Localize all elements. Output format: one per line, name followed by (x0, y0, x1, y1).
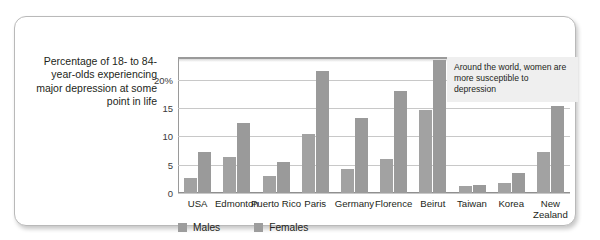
y-axis-tick-label: 15 (162, 103, 173, 114)
y-axis-tick-label: 0 (168, 188, 173, 199)
bar-females (198, 152, 211, 193)
bar-group: Germany (335, 57, 374, 193)
bar-males (498, 183, 511, 193)
bar-group: Edmonton (217, 57, 256, 193)
chart-screenshot: Percentage of 18- to 84-year-olds experi… (0, 0, 600, 240)
chart-frame: Percentage of 18- to 84-year-olds experi… (14, 16, 576, 226)
bar-females (394, 91, 407, 193)
bar-females (433, 60, 446, 193)
y-axis-caption: Percentage of 18- to 84-year-olds experi… (25, 55, 157, 109)
chart-legend: Males Females (178, 222, 308, 233)
legend-item-females: Females (254, 222, 308, 233)
bar-males (459, 186, 472, 193)
y-axis-tick-label: 5 (168, 159, 173, 170)
legend-swatch-males-icon (178, 223, 187, 232)
legend-item-males: Males (178, 222, 220, 233)
bar-group: Paris (296, 57, 335, 193)
y-axis-tick-label: 10 (162, 131, 173, 142)
bar-males (263, 176, 276, 193)
x-axis-tick-label: New Zealand (525, 198, 576, 220)
gridline: 0 (178, 193, 570, 194)
bar-females (551, 106, 564, 193)
bar-females (237, 123, 250, 193)
bar-group: Puerto Rico (256, 57, 295, 193)
annotation-callout: Around the world, women are more suscept… (447, 57, 578, 102)
bar-males (537, 152, 550, 193)
bar-females (355, 118, 368, 193)
bar-females (512, 173, 525, 193)
legend-label-males: Males (193, 222, 220, 233)
bar-group: Florence (374, 57, 413, 193)
y-axis-tick-label: 20% (154, 74, 173, 85)
bar-males (419, 110, 432, 193)
bar-females (473, 185, 486, 194)
bar-males (184, 178, 197, 193)
bar-males (302, 134, 315, 194)
bar-males (341, 169, 354, 193)
legend-swatch-females-icon (254, 223, 263, 232)
bar-males (380, 159, 393, 193)
bar-females (277, 162, 290, 193)
bar-males (223, 157, 236, 193)
legend-label-females: Females (269, 222, 308, 233)
bar-females (316, 71, 329, 193)
bar-group: USA (178, 57, 217, 193)
